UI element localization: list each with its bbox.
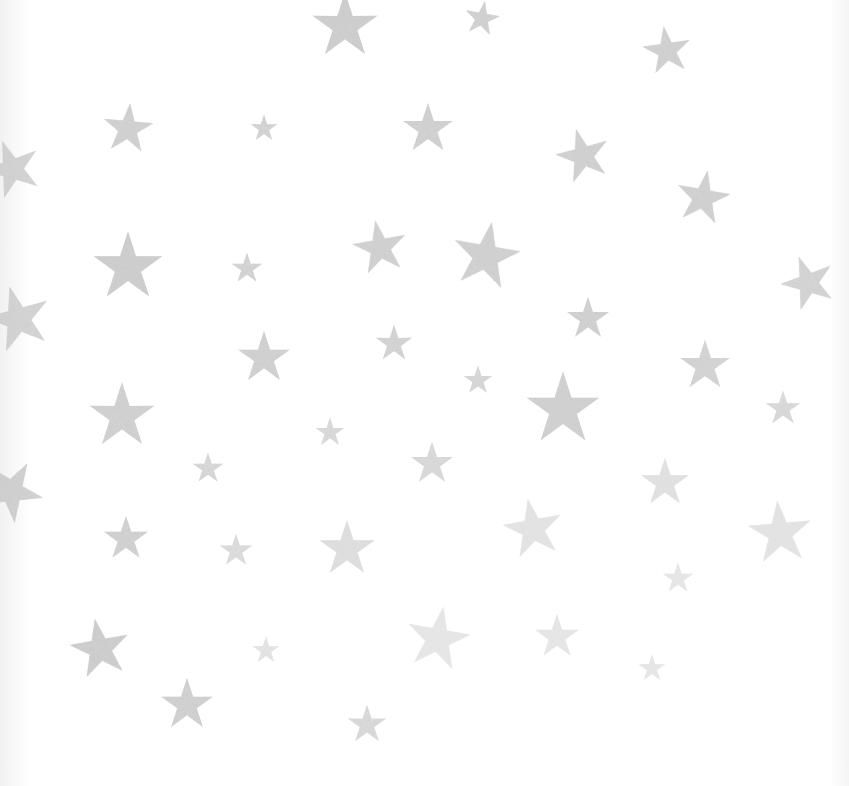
- right-edge-shadow: [829, 0, 849, 786]
- star-icon: [250, 114, 278, 142]
- star-icon: [318, 519, 376, 577]
- star-icon: [311, 0, 379, 59]
- star-icon: [252, 636, 280, 664]
- star-icon: [566, 296, 610, 340]
- star-icon: [744, 496, 816, 568]
- star-icon: [88, 381, 156, 449]
- star-icon: [315, 417, 345, 447]
- star-icon: [103, 515, 149, 561]
- star-icon: [671, 165, 736, 230]
- star-icon: [497, 492, 569, 564]
- star-icon: [402, 102, 454, 154]
- star-icon: [348, 215, 413, 280]
- star-icon: [525, 370, 601, 446]
- star-icon: [375, 324, 413, 362]
- star-icon: [237, 330, 291, 384]
- star-icon: [100, 100, 156, 156]
- star-icon: [445, 214, 526, 295]
- star-icon: [638, 654, 666, 682]
- star-icon: [0, 276, 60, 359]
- star-icon: [410, 441, 454, 485]
- star-icon: [549, 121, 618, 190]
- star-icon: [219, 533, 253, 567]
- star-icon: [192, 452, 224, 484]
- star-icon: [640, 457, 690, 507]
- star-icon: [347, 704, 387, 744]
- star-icon: [463, 365, 493, 395]
- star-icon: [765, 390, 801, 426]
- star-icon: [639, 22, 695, 78]
- star-icon: [461, 0, 503, 39]
- left-edge-shadow: [0, 0, 30, 786]
- star-icon: [0, 446, 56, 533]
- star-icon: [679, 339, 731, 391]
- star-icon: [231, 252, 263, 284]
- star-icon: [772, 246, 844, 318]
- star-icon: [0, 130, 50, 207]
- star-icon: [534, 613, 580, 659]
- star-icon: [160, 677, 214, 731]
- star-icon: [64, 612, 136, 684]
- star-icon: [92, 230, 164, 302]
- star-icon: [662, 562, 694, 594]
- star-icon: [400, 600, 476, 676]
